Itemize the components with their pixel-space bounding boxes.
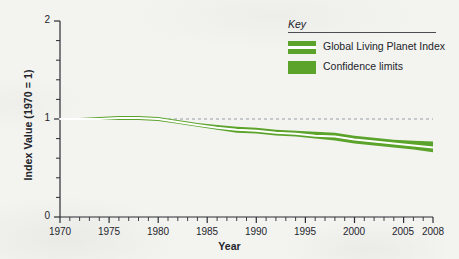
x-tick-label-1990: 1990: [236, 226, 276, 237]
y-tick-label-1: 1: [26, 112, 50, 123]
x-tick-label-2000: 2000: [334, 226, 374, 237]
x-tick-label-1995: 1995: [285, 226, 325, 237]
x-tick-label-1970: 1970: [40, 226, 80, 237]
legend-title-underline: [288, 32, 436, 33]
y-axis-title: Index Value (1970 = 1): [22, 45, 34, 205]
legend-item-confidence-limits: Confidence limits: [288, 60, 448, 74]
x-tick-label-1975: 1975: [89, 226, 129, 237]
legend-title: Key: [288, 18, 448, 32]
legend-swatch-index-band-icon: [288, 41, 316, 54]
legend-swatch-confidence-icon: [288, 61, 316, 74]
legend-label-confidence-limits: Confidence limits: [323, 60, 403, 73]
x-tick-label-1980: 1980: [138, 226, 178, 237]
confidence-band: [60, 116, 433, 152]
x-minor-ticks: [70, 217, 423, 221]
y-tick-label-2: 2: [26, 14, 50, 25]
y-tick-label-0: 0: [26, 210, 50, 221]
legend: Key Global Living Planet Index Confidenc…: [288, 18, 448, 80]
x-tick-label-1985: 1985: [187, 226, 227, 237]
x-axis-title: Year: [0, 240, 459, 252]
x-tick-label-2008: 2008: [413, 226, 453, 237]
legend-item-global-living-planet-index: Global Living Planet Index: [288, 40, 448, 54]
living-planet-index-chart: Index Value (1970 = 1) Year 2 1 0 1970 1…: [0, 0, 459, 259]
legend-label-global-living-planet-index: Global Living Planet Index: [323, 40, 445, 53]
